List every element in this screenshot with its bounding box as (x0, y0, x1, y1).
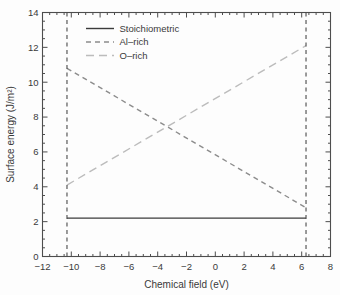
legend-label-1: Al–rich (120, 36, 149, 47)
y-tick-label: 10 (28, 77, 39, 88)
x-tick-label: 2 (241, 261, 246, 272)
plot-frame (43, 13, 331, 257)
x-tick-label: 0 (213, 261, 218, 272)
legend-label-0: Stoichiometric (120, 23, 180, 34)
x-tick-label: −6 (123, 261, 134, 272)
surface-energy-figure: −12−10−8−6−4−20246802468101214Stoichiome… (0, 0, 340, 295)
x-axis-label: Chemical field (eV) (144, 279, 228, 290)
series-line-1 (67, 68, 306, 207)
surface-energy-chart: −12−10−8−6−4−20246802468101214Stoichiome… (0, 0, 340, 295)
plot-area: −12−10−8−6−4−20246802468101214Stoichiome… (28, 7, 333, 272)
y-tick-label: 8 (33, 111, 38, 122)
series-line-2 (67, 46, 306, 185)
y-tick-label: 0 (33, 251, 38, 262)
x-tick-label: −8 (95, 261, 106, 272)
y-axis-label: Surface energy (J/m²) (5, 86, 16, 183)
x-tick-label: 8 (328, 261, 333, 272)
x-tick-label: −10 (63, 261, 79, 272)
y-tick-label: 6 (33, 146, 38, 157)
x-tick-label: −2 (181, 261, 192, 272)
y-tick-label: 14 (28, 7, 39, 18)
x-tick-label: 6 (299, 261, 304, 272)
x-tick-label: −12 (34, 261, 50, 272)
x-tick-label: −4 (152, 261, 163, 272)
y-tick-label: 2 (33, 216, 38, 227)
x-tick-label: 4 (270, 261, 275, 272)
legend-label-2: O–rich (120, 50, 148, 61)
y-tick-label: 4 (33, 181, 38, 192)
y-tick-label: 12 (28, 42, 39, 53)
